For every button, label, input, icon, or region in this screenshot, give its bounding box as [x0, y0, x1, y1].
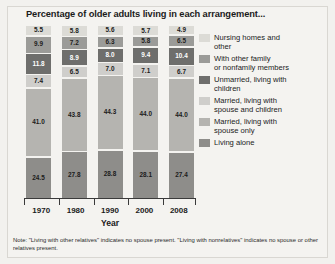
bar-value-label: 6.7: [177, 69, 186, 75]
x-axis-label-1990: 1990: [93, 206, 127, 215]
bar-segment: 27.4: [169, 153, 194, 198]
bar-value-label: 9.9: [34, 41, 43, 47]
legend-label: Married, living with spouse only: [214, 117, 277, 135]
legend-item[interactable]: With other family or nonfamily members: [199, 54, 327, 72]
bar-value-label: 5.7: [141, 28, 150, 34]
bar-segment: 6.7: [169, 66, 194, 77]
bar-segment: 5.5: [26, 26, 51, 35]
x-axis-tick: [94, 199, 95, 205]
bar-value-label: 6.5: [70, 69, 79, 75]
bar-segment: 7.4: [26, 75, 51, 87]
x-axis: [24, 198, 196, 205]
legend-swatch: [199, 139, 210, 147]
bar-segment: 10.4: [169, 48, 194, 65]
bar-segment: 5.8: [62, 26, 87, 36]
bar-value-label: 8.9: [70, 55, 79, 61]
bar-segment: 7.0: [98, 63, 123, 75]
bar-value-label: 11.8: [32, 61, 44, 67]
bar-value-label: 7.2: [70, 40, 79, 46]
bar-value-label: 5.5: [34, 27, 43, 33]
bar-value-label: 9.4: [141, 52, 150, 58]
bar-value-label: 7.1: [141, 68, 150, 74]
bar-segment: 6.5: [169, 36, 194, 47]
bar-segment: 28.8: [98, 151, 123, 198]
bar-value-label: 4.9: [177, 27, 186, 33]
bar-value-label: 7.0: [106, 66, 115, 72]
bar-segment: 41.0: [26, 89, 51, 156]
x-axis-label-1970: 1970: [24, 206, 58, 215]
bar-value-label: 28.1: [140, 172, 152, 178]
legend-label: Unmarried, living with children: [214, 75, 287, 93]
bar-2008: 4.96.510.46.744.027.4: [169, 26, 194, 198]
legend-label: Nursing homes and other: [214, 33, 280, 51]
bar-segment: 5.8: [133, 37, 158, 47]
bar-segment: 5.6: [98, 26, 123, 35]
legend-item[interactable]: Married, living with spouse and children: [199, 96, 327, 114]
legend-swatch: [199, 76, 210, 84]
bar-segment: 43.8: [62, 79, 87, 151]
legend-item[interactable]: Married, living with spouse only: [199, 117, 327, 135]
x-axis-tick-labels: 19701980199020002008: [24, 206, 196, 218]
x-axis-label-2008: 2008: [162, 206, 196, 215]
legend-item[interactable]: Unmarried, living with children: [199, 75, 327, 93]
x-axis-title: Year: [24, 218, 196, 228]
x-axis-label-1980: 1980: [59, 206, 93, 215]
bar-segment: 8.0: [98, 49, 123, 62]
bar-segment: 9.4: [133, 48, 158, 63]
legend-label: Married, living with spouse and children: [214, 96, 282, 114]
bar-value-label: 5.6: [106, 27, 115, 33]
legend-swatch: [199, 55, 210, 63]
bar-segment: 8.9: [62, 50, 87, 65]
bar-segment: 44.3: [98, 76, 123, 149]
x-axis-tick: [128, 199, 129, 205]
bar-1990: 5.66.38.07.044.328.8: [98, 26, 123, 198]
x-axis-tick: [163, 199, 164, 205]
chart-figure: Percentage of older adults living in eac…: [0, 0, 335, 264]
bar-segment: 11.8: [26, 54, 51, 73]
bar-value-label: 7.4: [34, 78, 43, 84]
bar-value-label: 44.3: [104, 109, 116, 115]
plot-area: 5.59.911.87.441.024.55.87.28.96.543.827.…: [26, 26, 194, 198]
bar-value-label: 24.5: [32, 175, 44, 181]
legend-label: Living alone: [214, 138, 255, 147]
bar-segment: 4.9: [169, 26, 194, 34]
bar-value-label: 44.0: [140, 111, 152, 117]
bar-value-label: 27.8: [68, 172, 80, 178]
bar-2000: 5.75.89.47.144.028.1: [133, 26, 158, 198]
bar-segment: 6.5: [62, 67, 87, 78]
bar-segment: 9.9: [26, 37, 51, 53]
bar-segment: 44.0: [169, 79, 194, 151]
legend-item[interactable]: Living alone: [199, 138, 327, 147]
bar-value-label: 41.0: [32, 119, 44, 125]
bar-value-label: 6.5: [177, 38, 186, 44]
bar-value-label: 8.0: [106, 52, 115, 58]
bar-value-label: 6.3: [106, 39, 115, 45]
x-axis-tick: [59, 199, 60, 205]
legend-swatch: [199, 97, 210, 105]
bar-segment: 7.1: [133, 65, 158, 77]
bar-segment: 7.2: [62, 37, 87, 49]
bar-1970: 5.59.911.87.441.024.5: [26, 26, 51, 198]
bar-value-label: 5.8: [141, 38, 150, 44]
legend-item[interactable]: Nursing homes and other: [199, 33, 327, 51]
chart-legend: Nursing homes and otherWith other family…: [199, 33, 327, 149]
legend-swatch: [199, 34, 210, 42]
chart-title: Percentage of older adults living in eac…: [26, 9, 265, 19]
bar-segment: 44.0: [133, 78, 158, 150]
bar-value-label: 43.8: [68, 112, 80, 118]
bar-value-label: 28.8: [104, 171, 116, 177]
legend-label: With other family or nonfamily members: [214, 54, 289, 72]
bar-segment: 6.3: [98, 37, 123, 47]
bar-1980: 5.87.28.96.543.827.8: [62, 26, 87, 198]
bar-value-label: 27.4: [175, 172, 187, 178]
bar-segment: 24.5: [26, 158, 51, 198]
x-axis-label-2000: 2000: [127, 206, 161, 215]
legend-swatch: [199, 118, 210, 126]
bar-value-label: 5.8: [70, 28, 79, 34]
bar-segment: 5.7: [133, 26, 158, 35]
bar-value-label: 44.0: [175, 112, 187, 118]
chart-footnote: Note: "Living with other relatives" indi…: [13, 237, 321, 252]
bar-value-label: 10.4: [175, 53, 187, 59]
bar-segment: 28.1: [133, 152, 158, 198]
bar-segment: 27.8: [62, 152, 87, 198]
